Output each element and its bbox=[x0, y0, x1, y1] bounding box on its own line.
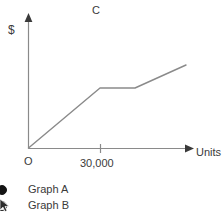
x-tick-label-30000: 30,000 bbox=[80, 157, 114, 169]
radio-button-graph-b[interactable] bbox=[0, 201, 7, 211]
graph-choice-options: Graph A Graph B bbox=[0, 182, 224, 215]
radio-button-graph-a[interactable] bbox=[0, 185, 7, 195]
x-axis-arrowhead bbox=[185, 145, 194, 153]
chart-title: C bbox=[92, 4, 100, 16]
option-graph-b[interactable]: Graph B bbox=[0, 198, 224, 214]
cost-line-series bbox=[29, 65, 187, 148]
cost-graph: C $ Units O 30,000 bbox=[0, 0, 224, 182]
y-axis-arrowhead bbox=[25, 13, 33, 22]
option-label-graph-a: Graph A bbox=[28, 183, 68, 195]
option-graph-a[interactable]: Graph A bbox=[0, 182, 224, 198]
chart-plot-svg bbox=[0, 0, 224, 182]
origin-label: O bbox=[24, 155, 33, 167]
y-axis-label: $ bbox=[8, 24, 15, 36]
x-axis-label: Units bbox=[196, 146, 221, 158]
graph-question-panel: C $ Units O 30,000 Graph A Graph B bbox=[0, 0, 224, 215]
option-label-graph-b: Graph B bbox=[28, 199, 69, 211]
